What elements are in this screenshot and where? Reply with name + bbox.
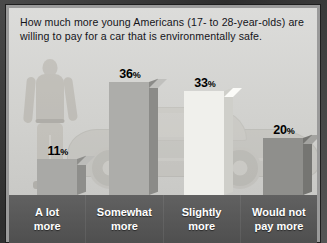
bar-side-face bbox=[149, 79, 158, 195]
category-label-line1: A lot bbox=[35, 205, 59, 219]
bar-front-face bbox=[109, 82, 149, 195]
bar-value-number: 33 bbox=[194, 76, 208, 90]
bar-side-face bbox=[224, 88, 233, 195]
category-label-line1: Somewhat bbox=[97, 205, 152, 219]
percent-sign: % bbox=[60, 147, 68, 157]
category-label-would-not-pay-more: Would not pay more bbox=[241, 195, 317, 243]
category-label-a-lot-more: A lot more bbox=[9, 195, 86, 243]
chart-screenshot: How much more young Americans (17- to 28… bbox=[0, 0, 327, 243]
bar-front-face bbox=[37, 159, 77, 195]
category-label-line1: Would not bbox=[252, 205, 306, 219]
bar-a-lot-more: 11% bbox=[37, 159, 77, 195]
category-label-somewhat-more: Somewhat more bbox=[86, 195, 163, 243]
bar-front-face bbox=[263, 138, 303, 195]
category-label-line1: Slightly bbox=[182, 205, 222, 219]
bar-value-number: 36 bbox=[119, 67, 133, 81]
bar-value-label: 36% bbox=[119, 67, 140, 81]
category-label-slightly-more: Slightly more bbox=[164, 195, 241, 243]
percent-sign: % bbox=[133, 70, 141, 80]
bar-value-label: 11% bbox=[48, 144, 69, 158]
category-label-line2: more bbox=[188, 219, 215, 233]
bar-would-not-pay-more: 20% bbox=[263, 138, 303, 195]
bar-value-label: 33% bbox=[194, 76, 215, 90]
bar-front-face bbox=[184, 91, 224, 195]
chart-plot-area: How much more young Americans (17- to 28… bbox=[9, 8, 317, 195]
category-label-band: A lot more Somewhat more Slightly more W… bbox=[9, 195, 317, 243]
percent-sign: % bbox=[208, 79, 216, 89]
bar-value-number: 20 bbox=[273, 123, 287, 137]
percent-sign: % bbox=[287, 126, 295, 136]
bar-slightly-more: 33% bbox=[184, 91, 224, 195]
category-label-line2: more bbox=[111, 219, 138, 233]
bar-value-number: 11 bbox=[48, 144, 61, 158]
category-label-line2: more bbox=[34, 219, 61, 233]
category-label-line2: pay more bbox=[254, 219, 303, 233]
bar-value-label: 20% bbox=[273, 123, 294, 137]
bar-somewhat-more: 36% bbox=[109, 82, 149, 195]
bar-series: 11% 36% 33% 20% bbox=[9, 8, 317, 195]
